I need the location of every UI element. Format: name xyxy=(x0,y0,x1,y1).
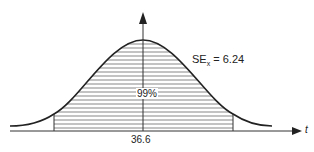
standard-error-label: SEx = 6.24 xyxy=(192,53,244,67)
vertical-axis-arrow-icon xyxy=(139,12,147,24)
t-axis-arrow-icon xyxy=(292,127,302,135)
mean-value-label: 36.6 xyxy=(131,134,150,145)
shaded-area-percent-label: 99% xyxy=(136,88,158,99)
normal-curve-diagram xyxy=(0,0,314,152)
t-axis-label: t xyxy=(305,124,308,135)
